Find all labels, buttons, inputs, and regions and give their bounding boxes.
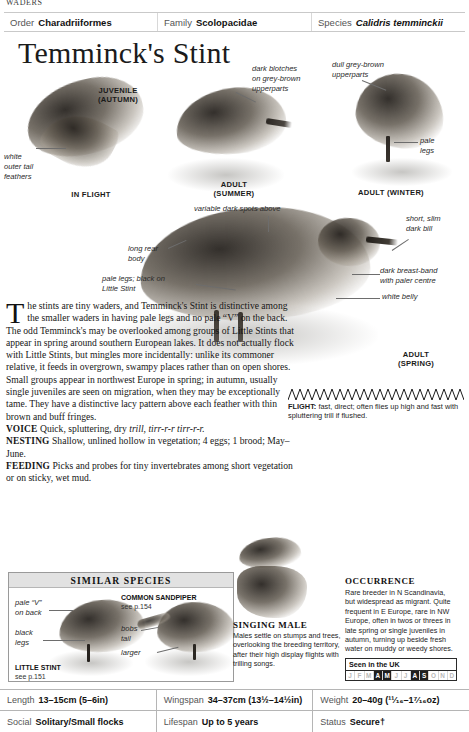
- flight-panel: FLIGHT: fast, direct; often flies up hig…: [288, 388, 466, 421]
- stat-status-value: Secure†: [350, 717, 385, 727]
- running-head: WADERS: [6, 0, 43, 7]
- leader-pale-legs-winter: [394, 142, 418, 143]
- stat-wingspan-value: 34–37cm (13½–14½in): [208, 695, 303, 705]
- lead-pale-v-on-back: pale “V”on back: [15, 598, 71, 618]
- leader-white-outer-tail: [36, 148, 66, 149]
- taxonomy-order-value: Charadriiformes: [38, 17, 111, 28]
- stat-weight-value: 20–40g (¹¹⁄₁₆–1⁷⁄₁₆oz): [352, 695, 439, 705]
- caption-adult-summer: ADULT(SUMMER): [196, 180, 272, 199]
- section-nesting: NESTING Shallow, unlined hollow in veget…: [6, 435, 296, 460]
- stat-social-value: Solitary/Small flocks: [36, 717, 124, 727]
- similar-species-common-sandpiper-name: COMMON SANDPIPER: [121, 594, 196, 601]
- taxonomy-order-label: Order: [10, 17, 34, 28]
- leader-dark-breast-band: [352, 274, 380, 275]
- lead-dark-breast-band: dark breast-bandwith paler centre: [380, 266, 469, 286]
- taxonomy-family: Family Scolopacidae: [158, 13, 312, 31]
- stat-lifespan: Lifespan Up to 5 years: [157, 711, 314, 732]
- stat-length-value: 13–15cm (5–6in): [39, 695, 109, 705]
- stats-table: Length 13–15cm (5–6in) Wingspan 34–37cm …: [0, 689, 469, 731]
- similar-species-little-stint-name: LITTLE STINT: [15, 664, 61, 671]
- taxonomy-species-value: Calidris temminckii: [356, 17, 443, 28]
- occurrence-text: Rare breeder in N Scandinavia, but wides…: [345, 588, 457, 654]
- month-dec: D: [448, 671, 456, 680]
- lead-dull-grey-brown-upperparts: dull grey-brownupperparts: [332, 60, 422, 80]
- stat-status-label: Status: [320, 717, 346, 727]
- caption-in-flight: IN FLIGHT: [56, 190, 126, 199]
- stat-social-label: Social: [7, 717, 32, 727]
- taxonomy-species: Species Calidris temminckii: [312, 13, 465, 31]
- lead-variable-dark-spots-above: variable dark spots above: [194, 204, 334, 214]
- similar-species-little-stint-page: see p.151: [15, 673, 61, 682]
- month-nov: N: [439, 671, 448, 680]
- singing-male-text: Males settle on stumps and trees, overlo…: [233, 631, 343, 668]
- section-voice-label: VOICE: [6, 424, 38, 434]
- month-feb: F: [355, 671, 364, 680]
- drop-cap: T: [6, 300, 27, 324]
- section-feeding-label: FEEDING: [6, 461, 50, 471]
- stat-weight-label: Weight: [320, 695, 348, 705]
- month-jul: J: [402, 671, 411, 680]
- lead-short-slim-dark-bill: short, slimdark bill: [406, 214, 468, 234]
- lead-black-legs: blacklegs: [15, 628, 55, 648]
- similar-species-common-sandpiper: COMMON SANDPIPER see p.154: [121, 594, 196, 612]
- caption-juvenile-autumn: JUVENILE(AUTUMN): [82, 86, 154, 105]
- month-sep: S: [420, 671, 429, 680]
- seen-in-uk-box: Seen in the UK J F M A M J J A S O N D: [345, 658, 457, 681]
- occurrence-title: OCCURRENCE: [345, 576, 457, 586]
- taxonomy-strip: Order Charadriiformes Family Scolopacida…: [4, 12, 465, 32]
- lead-long-rear-body: long rearbody: [128, 244, 182, 264]
- lead-white-belly: white belly: [382, 292, 452, 302]
- species-description: The stints are tiny waders, and Temminck…: [6, 300, 296, 484]
- section-voice: VOICE Quick, spluttering, dry trill, tir…: [6, 423, 296, 435]
- section-feeding-text: Picks and probes for tiny invertebrates …: [6, 460, 293, 483]
- caption-adult-winter: ADULT (WINTER): [336, 188, 446, 197]
- month-oct: O: [429, 671, 438, 680]
- singing-male-title: SINGING MALE: [233, 620, 343, 630]
- section-nesting-label: NESTING: [6, 436, 50, 446]
- stat-status: Status Secure†: [313, 711, 469, 732]
- similar-species-body: pale “V”on back blacklegs LITTLE STINT s…: [9, 588, 233, 682]
- caption-adult-spring: ADULT(SPRING): [380, 350, 452, 369]
- section-feeding: FEEDING Picks and probes for tiny invert…: [6, 460, 296, 485]
- occurrence-panel: OCCURRENCE Rare breeder in N Scandinavia…: [345, 576, 457, 681]
- stat-social: Social Solitary/Small flocks: [0, 711, 157, 732]
- similar-species-little-stint: LITTLE STINT see p.151: [15, 664, 61, 682]
- stat-weight: Weight 20–40g (¹¹⁄₁₆–1⁷⁄₁₆oz): [313, 690, 469, 710]
- stat-lifespan-value: Up to 5 years: [202, 717, 259, 727]
- taxonomy-family-value: Scolopacidae: [196, 17, 257, 28]
- similar-species-box: SIMILAR SPECIES pale “V”on back blackleg…: [8, 572, 234, 682]
- leader-variable-dark-spots: [268, 216, 269, 232]
- taxonomy-order: Order Charadriiformes: [4, 13, 158, 31]
- leader-white-belly: [336, 298, 380, 299]
- taxonomy-family-label: Family: [164, 17, 192, 28]
- stat-wingspan-label: Wingspan: [164, 695, 204, 705]
- month-jun: J: [392, 671, 401, 680]
- section-voice-italic: trill, tirr-r-r tirr-r-r.: [129, 423, 204, 434]
- flight-zigzag-icon: [288, 388, 464, 401]
- singing-male-panel: SINGING MALE Males settle on stumps and …: [233, 560, 343, 668]
- stat-length-label: Length: [7, 695, 35, 705]
- stats-row-2: Social Solitary/Small flocks Lifespan Up…: [0, 711, 469, 732]
- seen-in-uk-title: Seen in the UK: [346, 659, 456, 671]
- bird-common-sandpiper-legs: [193, 644, 196, 660]
- lead-bobs-tail: bobstail: [121, 624, 155, 644]
- flight-description: FLIGHT: fast, direct; often flies up hig…: [288, 402, 466, 421]
- month-may: M: [383, 671, 392, 680]
- month-jan: J: [346, 671, 355, 680]
- month-aug: A: [411, 671, 420, 680]
- lead-dark-blotches: dark blotcheson grey-brownupperparts: [252, 64, 338, 94]
- lead-pale-legs-black-on-little-stint: pale legs; black onLittle Stint: [102, 274, 202, 294]
- stat-length: Length 13–15cm (5–6in): [0, 690, 157, 710]
- lead-pale-legs: palelegs: [420, 136, 460, 156]
- rock-perch: [237, 566, 307, 618]
- similar-species-common-sandpiper-page: see p.154: [121, 603, 196, 612]
- seen-in-uk-months: J F M A M J J A S O N D: [346, 671, 456, 680]
- bird-adult-winter-legs: [386, 136, 390, 162]
- month-apr: A: [374, 671, 383, 680]
- description-intro-text: he stints are tiny waders, and Temminck'…: [6, 300, 294, 422]
- flight-label: FLIGHT:: [288, 402, 316, 411]
- taxonomy-species-label: Species: [318, 17, 352, 28]
- lead-larger: larger: [121, 648, 155, 658]
- stat-wingspan: Wingspan 34–37cm (13½–14½in): [157, 690, 314, 710]
